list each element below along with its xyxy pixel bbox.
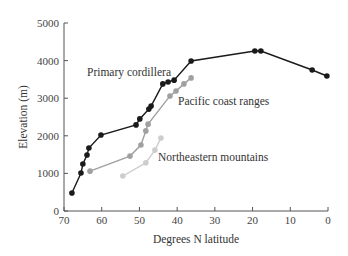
data-point bbox=[80, 161, 86, 167]
data-point bbox=[98, 132, 104, 138]
series-primary-cordillera: Primary cordillera bbox=[69, 48, 330, 196]
elevation-latitude-chart: 010002000300040005000 706050403020100 No… bbox=[0, 0, 348, 256]
data-point bbox=[188, 58, 194, 64]
data-point bbox=[133, 122, 139, 128]
x-axis-title: Degrees N latitude bbox=[153, 233, 239, 246]
x-tick-label: 20 bbox=[247, 214, 259, 226]
x-tick-label: 0 bbox=[325, 214, 331, 226]
y-tick-label: 4000 bbox=[37, 55, 60, 67]
x-tick-label: 50 bbox=[134, 214, 146, 226]
y-tick-label: 3000 bbox=[37, 92, 60, 104]
data-point bbox=[309, 67, 315, 73]
data-point bbox=[78, 170, 84, 176]
y-axis-title: Elevation (m) bbox=[17, 85, 30, 149]
data-point bbox=[148, 103, 154, 109]
y-tick-label: 2000 bbox=[37, 130, 60, 142]
data-point bbox=[258, 48, 264, 54]
data-point bbox=[69, 190, 75, 196]
data-point bbox=[171, 77, 177, 83]
data-point bbox=[165, 79, 171, 85]
series-layer: Northeastern mountainsPacific coast rang… bbox=[69, 48, 330, 196]
data-point bbox=[127, 153, 133, 159]
data-point bbox=[158, 135, 164, 141]
data-point bbox=[145, 121, 151, 127]
data-point bbox=[84, 152, 90, 158]
data-point bbox=[160, 81, 166, 87]
x-tick-label: 40 bbox=[172, 214, 184, 226]
data-point bbox=[87, 168, 93, 174]
series-label: Pacific coast ranges bbox=[178, 95, 270, 108]
data-point bbox=[188, 75, 194, 81]
data-point bbox=[120, 173, 126, 179]
data-point bbox=[138, 142, 144, 148]
x-tick-label: 60 bbox=[96, 214, 108, 226]
y-tick-label: 5000 bbox=[37, 17, 60, 29]
y-axis: 010002000300040005000 bbox=[37, 17, 68, 217]
data-point bbox=[137, 116, 143, 122]
x-tick-label: 30 bbox=[209, 214, 221, 226]
data-point bbox=[173, 88, 179, 94]
data-point bbox=[152, 147, 158, 153]
data-point bbox=[181, 81, 187, 87]
data-point bbox=[143, 160, 149, 166]
x-axis: 706050403020100 bbox=[59, 207, 332, 226]
data-point bbox=[167, 93, 173, 99]
series-label: Northeastern mountains bbox=[158, 151, 269, 163]
data-point bbox=[86, 145, 92, 151]
y-tick-label: 1000 bbox=[37, 167, 60, 179]
data-point bbox=[252, 48, 258, 54]
data-point bbox=[324, 73, 330, 79]
data-point bbox=[143, 128, 149, 134]
x-tick-label: 70 bbox=[59, 214, 71, 226]
series-label: Primary cordillera bbox=[87, 66, 171, 79]
x-tick-label: 10 bbox=[285, 214, 297, 226]
